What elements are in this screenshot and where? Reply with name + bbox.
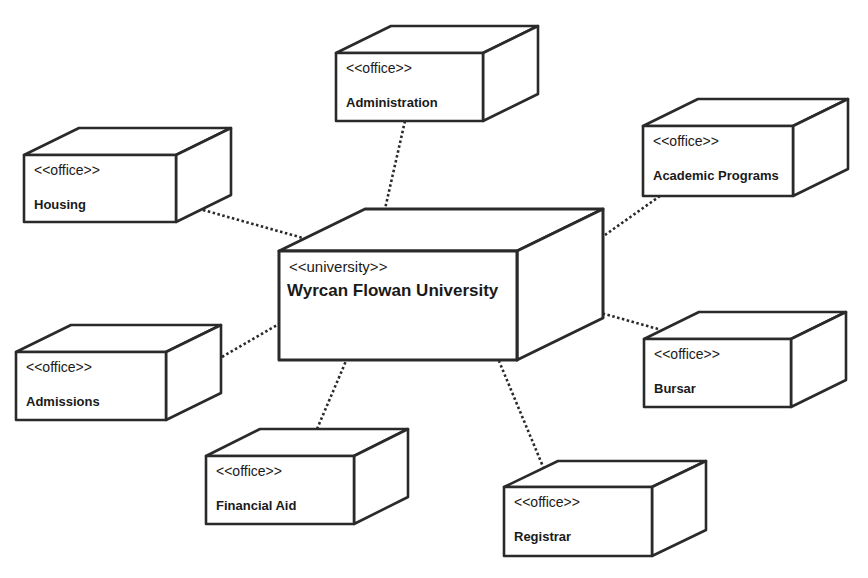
- financial-aid-stereotype: <<office>>: [216, 463, 282, 479]
- registrar-name: Registrar: [514, 529, 571, 544]
- bursar-stereotype: <<office>>: [654, 346, 720, 362]
- financial-aid-name: Financial Aid: [216, 498, 296, 513]
- university-name: Wyrcan Flowan University: [287, 281, 498, 301]
- admissions-name: Admissions: [26, 394, 100, 409]
- admissions-stereotype: <<office>>: [26, 359, 92, 375]
- administration-name: Administration: [346, 95, 438, 110]
- connector-registrar: [499, 361, 544, 469]
- housing-stereotype: <<office>>: [34, 162, 100, 178]
- university-stereotype: <<university>>: [289, 258, 387, 275]
- academic-programs-stereotype: <<office>>: [653, 133, 719, 149]
- academic-programs-name: Academic Programs: [653, 168, 779, 183]
- registrar-stereotype: <<office>>: [514, 494, 580, 510]
- housing-name: Housing: [34, 197, 86, 212]
- administration-stereotype: <<office>>: [346, 60, 412, 76]
- connector-financial-aid: [317, 361, 346, 429]
- connector-admissions: [222, 324, 279, 357]
- connector-bursar: [601, 313, 658, 329]
- bursar-name: Bursar: [654, 381, 696, 396]
- connector-academic-programs: [605, 196, 660, 235]
- connector-housing: [203, 210, 303, 238]
- connector-administration: [385, 121, 405, 209]
